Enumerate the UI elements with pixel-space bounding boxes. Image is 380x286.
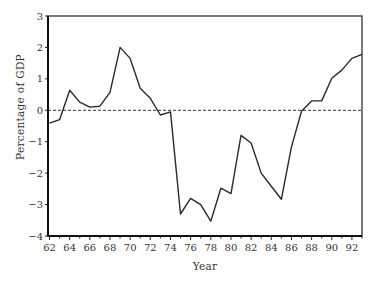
x-tick-label: 62	[43, 242, 56, 253]
y-tick-label: 3	[37, 11, 43, 22]
x-tick-label: 76	[184, 242, 197, 253]
x-tick-label: 84	[265, 242, 278, 253]
y-tick-label: −2	[28, 168, 43, 179]
x-tick-label: 92	[346, 242, 359, 253]
x-tick-label: 90	[325, 242, 338, 253]
x-tick-label: 64	[63, 242, 76, 253]
y-axis-ticks: 3210−1−2−3−4	[28, 11, 48, 242]
plot-frame	[48, 16, 362, 236]
x-axis-title: Year	[192, 260, 218, 272]
y-axis-title: Percentage of GDP	[14, 54, 26, 160]
y-tick-label: −3	[28, 199, 43, 210]
x-tick-label: 74	[164, 242, 177, 253]
x-tick-label: 82	[245, 242, 258, 253]
y-tick-label: −4	[28, 231, 43, 242]
x-tick-label: 68	[104, 242, 117, 253]
x-tick-label: 70	[124, 242, 137, 253]
x-tick-label: 86	[285, 242, 298, 253]
x-tick-label: 66	[83, 242, 96, 253]
x-axis-ticks: 62646668707274767880828486889092	[43, 236, 362, 253]
x-tick-label: 78	[204, 242, 217, 253]
y-tick-label: 1	[37, 73, 43, 84]
y-tick-label: 2	[37, 42, 43, 53]
data-series-line	[50, 47, 363, 221]
x-tick-label: 72	[144, 242, 157, 253]
y-tick-label: −1	[28, 136, 43, 147]
y-tick-label: 0	[37, 105, 43, 116]
line-chart: 3210−1−2−3−4 626466687072747678808284868…	[0, 0, 380, 286]
x-tick-label: 88	[305, 242, 318, 253]
x-tick-label: 80	[225, 242, 238, 253]
